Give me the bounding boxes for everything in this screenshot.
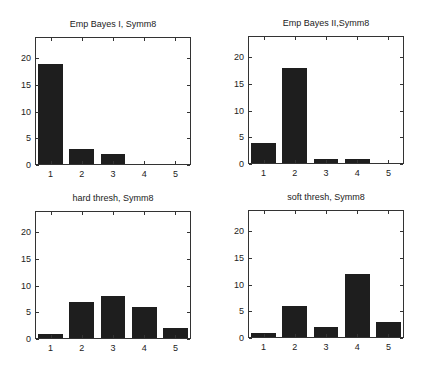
y-tick-mark bbox=[400, 258, 403, 259]
y-tick-mark bbox=[187, 165, 190, 166]
x-tick-mark bbox=[82, 38, 83, 41]
x-tick-mark bbox=[82, 212, 83, 215]
y-tick-mark bbox=[249, 338, 252, 339]
x-tick-mark bbox=[295, 334, 296, 337]
chart-title: hard thresh, Symm8 bbox=[72, 193, 153, 203]
x-tick-mark bbox=[51, 161, 52, 164]
y-tick-mark bbox=[400, 57, 403, 58]
y-tick-mark bbox=[400, 164, 403, 165]
x-tick-mark bbox=[326, 160, 327, 163]
y-tick-mark bbox=[187, 286, 190, 287]
x-tick-mark bbox=[326, 37, 327, 40]
x-tick-label: 2 bbox=[292, 342, 297, 352]
y-tick-mark bbox=[36, 286, 39, 287]
y-tick-label: 5 bbox=[224, 132, 244, 142]
x-tick-mark bbox=[144, 335, 145, 338]
bar bbox=[282, 68, 307, 163]
x-tick-label: 4 bbox=[142, 169, 147, 179]
bar bbox=[345, 274, 370, 337]
x-tick-mark bbox=[113, 212, 114, 215]
x-tick-label: 1 bbox=[261, 168, 266, 178]
y-tick-label: 10 bbox=[224, 280, 244, 290]
x-tick-mark bbox=[388, 37, 389, 40]
x-tick-mark bbox=[113, 161, 114, 164]
x-tick-mark bbox=[175, 212, 176, 215]
y-tick-label: 15 bbox=[11, 254, 31, 264]
y-tick-mark bbox=[249, 285, 252, 286]
y-tick-mark bbox=[187, 339, 190, 340]
x-tick-mark bbox=[264, 37, 265, 40]
y-tick-mark bbox=[36, 58, 39, 59]
bar bbox=[132, 307, 157, 338]
x-tick-mark bbox=[264, 160, 265, 163]
y-tick-mark bbox=[187, 312, 190, 313]
x-tick-mark bbox=[144, 38, 145, 41]
y-tick-mark bbox=[36, 232, 39, 233]
y-tick-mark bbox=[249, 231, 252, 232]
x-tick-mark bbox=[51, 38, 52, 41]
y-tick-mark bbox=[400, 338, 403, 339]
y-tick-mark bbox=[400, 231, 403, 232]
x-tick-label: 4 bbox=[142, 343, 147, 353]
y-tick-label: 10 bbox=[11, 107, 31, 117]
y-tick-mark bbox=[36, 312, 39, 313]
chart-title: Emp Bayes II,Symm8 bbox=[283, 18, 370, 28]
y-tick-label: 20 bbox=[224, 52, 244, 62]
x-tick-label: 5 bbox=[386, 168, 391, 178]
y-tick-mark bbox=[249, 311, 252, 312]
x-tick-label: 5 bbox=[173, 169, 178, 179]
x-tick-mark bbox=[357, 211, 358, 214]
x-tick-mark bbox=[264, 334, 265, 337]
y-tick-label: 0 bbox=[11, 334, 31, 344]
y-tick-mark bbox=[36, 85, 39, 86]
x-tick-mark bbox=[82, 335, 83, 338]
y-tick-mark bbox=[36, 138, 39, 139]
x-tick-label: 2 bbox=[292, 168, 297, 178]
y-tick-mark bbox=[187, 232, 190, 233]
y-tick-mark bbox=[249, 84, 252, 85]
x-tick-label: 2 bbox=[79, 169, 84, 179]
y-tick-label: 10 bbox=[11, 281, 31, 291]
y-tick-mark bbox=[249, 164, 252, 165]
y-tick-mark bbox=[249, 137, 252, 138]
x-tick-label: 4 bbox=[355, 342, 360, 352]
x-tick-mark bbox=[326, 334, 327, 337]
x-tick-label: 1 bbox=[48, 169, 53, 179]
x-tick-mark bbox=[326, 211, 327, 214]
x-tick-mark bbox=[144, 212, 145, 215]
x-tick-label: 5 bbox=[173, 343, 178, 353]
x-tick-label: 1 bbox=[261, 342, 266, 352]
y-tick-label: 15 bbox=[11, 80, 31, 90]
x-tick-mark bbox=[51, 212, 52, 215]
y-tick-mark bbox=[187, 259, 190, 260]
y-tick-mark bbox=[187, 58, 190, 59]
y-tick-mark bbox=[36, 165, 39, 166]
chart-title: Emp Bayes I, Symm8 bbox=[70, 19, 157, 29]
x-tick-label: 4 bbox=[355, 168, 360, 178]
x-tick-mark bbox=[82, 161, 83, 164]
plot-area bbox=[248, 210, 404, 338]
y-tick-label: 0 bbox=[224, 333, 244, 343]
y-tick-mark bbox=[187, 112, 190, 113]
y-tick-mark bbox=[249, 258, 252, 259]
y-tick-mark bbox=[249, 111, 252, 112]
x-tick-mark bbox=[357, 160, 358, 163]
x-tick-label: 2 bbox=[79, 343, 84, 353]
y-tick-label: 20 bbox=[11, 227, 31, 237]
bar bbox=[282, 306, 307, 337]
y-tick-label: 5 bbox=[11, 307, 31, 317]
bar bbox=[38, 64, 63, 164]
x-tick-mark bbox=[388, 334, 389, 337]
x-tick-mark bbox=[295, 160, 296, 163]
x-tick-mark bbox=[144, 161, 145, 164]
y-tick-mark bbox=[36, 112, 39, 113]
x-tick-mark bbox=[175, 161, 176, 164]
x-tick-mark bbox=[175, 335, 176, 338]
y-tick-label: 5 bbox=[11, 133, 31, 143]
x-tick-label: 3 bbox=[110, 169, 115, 179]
bar bbox=[69, 302, 94, 338]
bar bbox=[101, 296, 126, 338]
y-tick-label: 20 bbox=[224, 226, 244, 236]
x-tick-mark bbox=[113, 335, 114, 338]
x-tick-mark bbox=[357, 334, 358, 337]
